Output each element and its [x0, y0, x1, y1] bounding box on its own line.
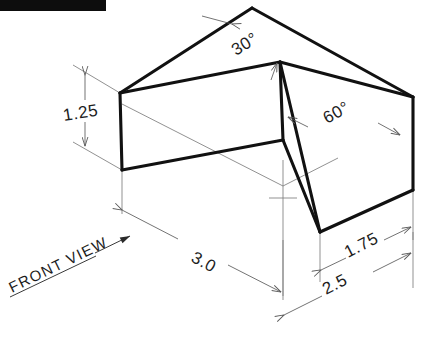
dim-label-height: 1.25 — [62, 101, 100, 125]
leader-angle-30 — [202, 16, 232, 24]
extension-lines-group — [73, 65, 413, 300]
dim-line-30-right — [228, 265, 281, 292]
isometric-drawing-svg: 1.25 3.0 1.75 2.5 30° 60° FRONT VIEW — [0, 0, 427, 349]
text-labels-group: 1.25 3.0 1.75 2.5 30° 60° FRONT VIEW — [6, 29, 382, 299]
leader-angle-notch-top — [271, 63, 277, 80]
technical-drawing-canvas: 1.25 3.0 1.75 2.5 30° 60° FRONT VIEW — [0, 0, 427, 349]
dim-line-175-left — [321, 258, 346, 270]
dimension-lines-group — [85, 16, 411, 315]
dim-line-30-left — [122, 210, 178, 239]
edge-front-bottom — [122, 140, 283, 170]
angle-label-60: 60° — [320, 98, 353, 128]
dim-line-175-right — [384, 227, 411, 240]
dim-label-length: 3.0 — [188, 248, 219, 277]
edge-notch-to-right-bottom — [320, 190, 413, 232]
dim-line-25-left — [284, 296, 322, 315]
ext-line-height-top — [73, 65, 120, 93]
edge-front-left-vertical — [120, 93, 122, 170]
dim-line-25-right — [373, 253, 411, 272]
edge-roof-right — [252, 8, 413, 97]
dim-label-notch-depth: 1.75 — [341, 229, 381, 262]
front-view-label: FRONT VIEW — [6, 233, 110, 296]
object-edges-group — [120, 8, 413, 232]
dim-label-depth: 2.5 — [319, 270, 350, 298]
leader-angle-notch-inner — [288, 117, 308, 127]
ext-line-height-bottom — [73, 142, 122, 170]
angle-label-30: 30° — [228, 29, 261, 60]
leader-angle-60 — [378, 123, 400, 135]
edge-back-ridge — [280, 62, 413, 97]
